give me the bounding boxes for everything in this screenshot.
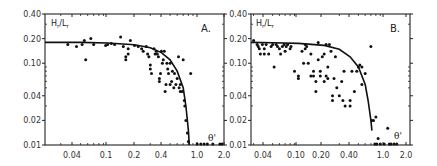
x-axis-ticks-a: 0.040.10.20.41.02.0 <box>61 14 231 160</box>
data-point <box>258 47 261 50</box>
data-point <box>127 52 130 55</box>
y-tick-label: 0.10 <box>229 59 247 68</box>
data-point <box>317 58 320 61</box>
y-axis-label-b: Hr/Lr <box>256 19 274 29</box>
data-point <box>259 52 262 55</box>
data-point <box>113 43 116 46</box>
data-point <box>393 143 396 146</box>
data-point <box>184 119 187 122</box>
data-point <box>163 50 166 53</box>
data-point <box>360 83 363 86</box>
data-point <box>137 45 140 48</box>
data-point <box>297 77 300 80</box>
y-tick-label: 0.20 <box>229 35 247 44</box>
data-point <box>149 68 152 71</box>
data-point <box>374 116 377 119</box>
y-tick-label: 0.10 <box>23 59 41 68</box>
data-point <box>325 43 328 46</box>
data-point <box>355 70 358 73</box>
y-tick-label: 0.04 <box>229 92 247 101</box>
data-point <box>66 43 69 46</box>
y-axis-ticks-a: 0.400.200.100.040.020.01 <box>23 10 227 150</box>
fit-curve <box>251 42 372 130</box>
data-point <box>317 41 320 44</box>
y-tick-label: 0.02 <box>229 116 247 125</box>
data-point <box>181 90 184 93</box>
y-tick-label: 0.40 <box>229 10 247 19</box>
data-point <box>106 43 109 46</box>
data-point <box>89 37 92 40</box>
data-point <box>221 143 224 146</box>
data-point <box>172 86 175 89</box>
data-point <box>326 77 329 80</box>
data-point <box>331 99 334 102</box>
data-point <box>171 70 174 73</box>
panel-b: 0.400.200.100.040.020.01 0.040.100.200.4… <box>229 10 413 160</box>
data-point <box>379 143 382 146</box>
data-point <box>360 66 363 69</box>
data-point <box>334 55 337 58</box>
data-point <box>312 74 315 77</box>
data-point <box>165 83 168 86</box>
data-point <box>341 99 344 102</box>
y-tick-label: 0.04 <box>23 92 41 101</box>
y-tick-label: 0.01 <box>23 141 41 150</box>
data-point <box>271 43 274 46</box>
data-point <box>305 45 308 48</box>
x-tick-label: 0.2 <box>128 151 141 160</box>
y-tick-label: 0.02 <box>23 116 41 125</box>
x-tick-label: 0.04 <box>254 151 272 160</box>
data-point <box>377 137 380 140</box>
x-tick-label: 1.0 <box>191 151 204 160</box>
data-point <box>383 143 386 146</box>
data-point <box>335 86 338 89</box>
data-point <box>331 94 334 97</box>
data-point <box>189 72 192 75</box>
data-point <box>314 90 317 93</box>
data-point <box>183 105 186 108</box>
data-point <box>176 77 179 80</box>
data-point <box>284 50 287 53</box>
data-point <box>349 99 352 102</box>
x-tick-label: 2.0 <box>218 151 231 160</box>
data-point <box>263 52 266 55</box>
data-point <box>156 52 159 55</box>
data-point <box>158 80 161 83</box>
data-point <box>83 39 86 42</box>
data-point <box>146 52 149 55</box>
panel-label-a: A. <box>201 23 211 34</box>
data-point <box>153 47 156 50</box>
data-point <box>349 105 352 108</box>
fit-curve-a <box>45 42 189 145</box>
data-points-a <box>66 35 223 145</box>
data-point <box>340 80 343 83</box>
panel-a: 0.400.200.100.040.020.01 0.040.10.20.41.… <box>23 10 230 160</box>
data-point <box>390 143 393 146</box>
data-point <box>321 55 324 58</box>
data-point <box>314 80 317 83</box>
data-point <box>302 62 305 65</box>
data-point <box>124 55 127 58</box>
data-point <box>372 119 375 122</box>
x-tick-label: 0.1 <box>100 151 113 160</box>
data-point <box>278 47 281 50</box>
data-point <box>92 43 95 46</box>
data-point <box>158 77 161 80</box>
data-point <box>273 66 276 69</box>
data-point <box>261 43 264 46</box>
data-point <box>119 35 122 38</box>
data-point <box>142 50 145 53</box>
data-point <box>110 42 113 45</box>
x-tick-label: 1.0 <box>377 151 390 160</box>
x-tick-label: 0.20 <box>312 151 330 160</box>
x-tick-label: 2.0 <box>400 151 413 160</box>
fit-curve <box>45 42 189 145</box>
data-point <box>170 80 173 83</box>
figure: 0.400.200.100.040.020.01 0.040.10.20.41.… <box>0 0 437 166</box>
y-axis-ticks-b: 0.400.200.100.040.020.01 <box>229 10 413 150</box>
data-point <box>129 39 132 42</box>
data-point <box>203 143 206 146</box>
data-points-b <box>252 39 398 146</box>
y-axis-label-a: Hr/Lr <box>51 19 69 29</box>
data-point <box>75 45 78 48</box>
